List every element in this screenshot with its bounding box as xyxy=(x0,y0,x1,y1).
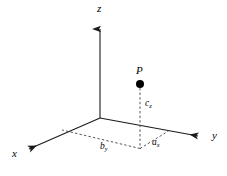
y-axis-line xyxy=(100,118,198,136)
z-axis-label: z xyxy=(97,3,101,14)
by-component-label: by xyxy=(100,142,108,152)
x-axis-line xyxy=(29,118,100,149)
y-axis-label: y xyxy=(212,130,217,141)
coordinate-axes-figure: z x y P cz by ax xyxy=(0,0,227,176)
ax-subscript: x xyxy=(157,141,160,148)
cz-component-label: cz xyxy=(145,99,152,109)
point-p-label: P xyxy=(136,65,143,76)
ax-component-label: ax xyxy=(152,138,160,148)
point-p-marker xyxy=(136,80,144,88)
figure-canvas xyxy=(0,0,227,176)
cz-subscript: z xyxy=(149,102,152,109)
x-axis-label: x xyxy=(12,148,17,159)
by-subscript: y xyxy=(105,145,108,152)
